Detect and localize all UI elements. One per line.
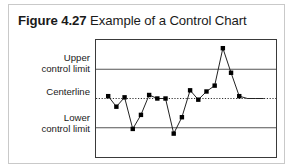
data-point-marker <box>155 96 159 100</box>
data-point-marker <box>221 46 225 50</box>
data-point-marker <box>131 127 135 131</box>
data-point-marker <box>139 113 143 117</box>
plot-svg <box>96 40 276 157</box>
lower-control-limit-label-line1: Lower <box>64 112 90 123</box>
upper-control-limit-label-line1: Upper <box>64 52 90 63</box>
lower-control-limit-label-line2: control limit <box>41 123 90 134</box>
data-point-marker <box>114 104 118 108</box>
plot-frame <box>95 39 277 158</box>
series-line <box>108 48 264 133</box>
data-point-marker <box>163 96 167 100</box>
series-markers-group <box>106 46 241 136</box>
data-point-marker <box>204 89 208 93</box>
data-point-marker <box>196 97 200 101</box>
data-point-marker <box>212 83 216 87</box>
upper-control-limit-label-line2: control limit <box>41 63 90 74</box>
upper-control-limit-label: Upper control limit <box>8 53 90 74</box>
control-chart: Upper control limit Centerline Lower con… <box>9 37 286 163</box>
data-point-marker <box>147 93 151 97</box>
data-point-marker <box>237 94 241 98</box>
data-point-marker <box>180 115 184 119</box>
lower-control-limit-label: Lower control limit <box>8 113 90 134</box>
figure-container: Figure 4.27 Example of a Control Chart U… <box>8 4 285 164</box>
figure-number: Figure 4.27 <box>18 13 87 28</box>
axis-label-group: Upper control limit Centerline Lower con… <box>9 37 94 163</box>
data-point-marker <box>229 71 233 75</box>
data-point-marker <box>172 131 176 135</box>
figure-title: Figure 4.27 Example of a Control Chart <box>18 13 280 28</box>
centerline-label: Centerline <box>8 87 90 98</box>
data-point-marker <box>188 88 192 92</box>
data-point-marker <box>106 94 110 98</box>
figure-caption: Example of a Control Chart <box>90 13 246 28</box>
data-point-marker <box>122 95 126 99</box>
